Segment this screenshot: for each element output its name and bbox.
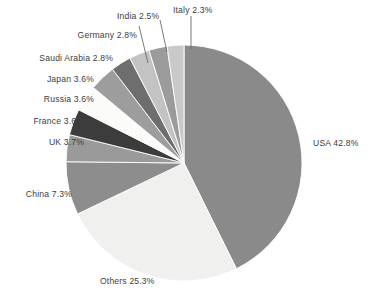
slice-label-uk: UK 3.7% xyxy=(0,138,84,147)
slice-label-france: France 3.6% xyxy=(0,117,84,126)
pie-slices: USA 42.8%Others 25.3%China 7.3%UK 3.7%Fr… xyxy=(66,45,302,281)
slice-label-italy: Italy 2.3% xyxy=(173,6,212,15)
slice-label-usa: USA 42.8% xyxy=(313,139,359,148)
slice-label-others: Others 25.3% xyxy=(100,277,155,286)
slice-label-saudi-arabia: Saudi Arabia 2.8% xyxy=(0,54,113,63)
slice-label-russia: Russia 3.6% xyxy=(0,95,94,104)
pie-canvas: USA 42.8%Others 25.3%China 7.3%UK 3.7%Fr… xyxy=(0,0,369,302)
slice-label-japan: Japan 3.6% xyxy=(0,75,94,84)
slice-label-india: India 2.5% xyxy=(117,12,159,21)
slice-label-china: China 7.3% xyxy=(0,190,72,199)
slice-label-germany: Germany 2.8% xyxy=(0,31,137,40)
pie-chart: USA 42.8%Others 25.3%China 7.3%UK 3.7%Fr… xyxy=(0,0,369,302)
